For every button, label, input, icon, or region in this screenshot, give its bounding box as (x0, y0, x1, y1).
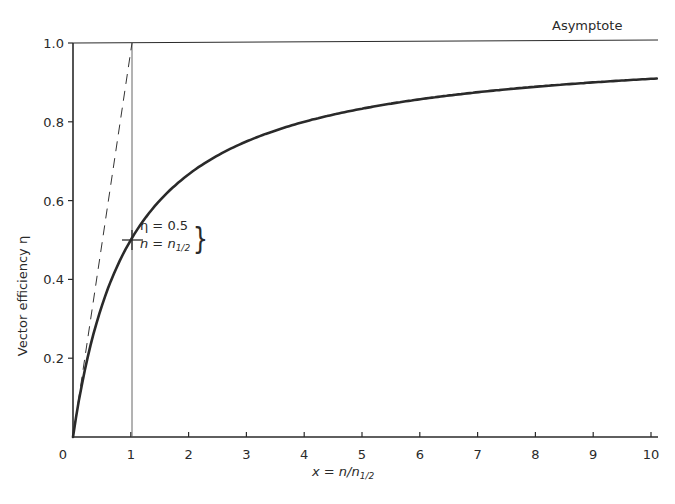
annotation-n: n = n1/2 (140, 236, 190, 253)
y-ticks: 0.20.40.60.81.0 (43, 36, 73, 366)
efficiency-curve (73, 79, 657, 438)
x-tick-label: 1 (127, 447, 135, 462)
x-tick-label: 5 (358, 447, 366, 462)
y-tick-label: 1.0 (43, 36, 64, 51)
annotation-brace: } (193, 221, 208, 255)
x-axis-label: x = n/n1/2 (311, 464, 374, 481)
x-tick-label: 9 (589, 447, 597, 462)
x-tick-label: 10 (643, 447, 660, 462)
x-tick-label: 3 (242, 447, 250, 462)
asymptote-label: Asymptote (552, 18, 622, 33)
x-tick-label: 7 (473, 447, 481, 462)
y-tick-label: 0.4 (43, 272, 64, 287)
asymptote-line (73, 40, 658, 43)
y-tick-label: 0.6 (43, 194, 64, 209)
x-tick-label: 4 (300, 447, 308, 462)
y-tick-label: 0.2 (43, 351, 64, 366)
annotation-eta: η = 0.5 (140, 218, 188, 233)
efficiency-chart: 0.20.40.60.81.0 012345678910 Asymptote η… (0, 0, 675, 504)
half-performance-annotation: η = 0.5 n = n1/2 } (140, 218, 208, 256)
y-tick-label: 0.8 (43, 115, 64, 130)
x-tick-label: 2 (184, 447, 192, 462)
x-tick-label: 8 (531, 447, 539, 462)
y-axis-label: Vector efficiency η (15, 236, 30, 356)
x-tick-label: 0 (59, 447, 67, 462)
x-tick-label: 6 (416, 447, 424, 462)
cropped-caption (0, 496, 675, 504)
